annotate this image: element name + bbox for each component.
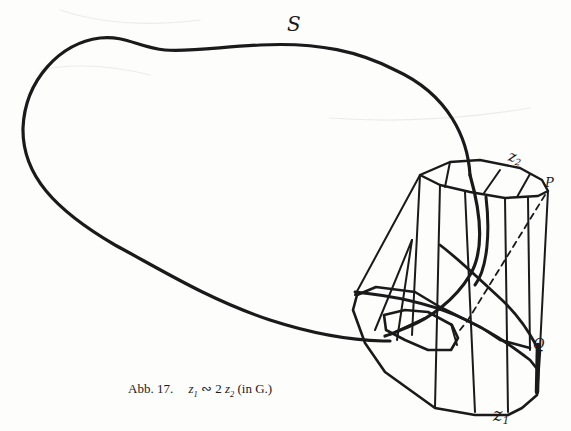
bleed-through-lines	[40, 10, 530, 120]
caption-suffix: (in G.)	[234, 381, 272, 396]
inner-loop	[384, 310, 458, 350]
surface-diagram	[0, 0, 571, 431]
caption-formula: z1 ∾ 2 z2 (in G.)	[188, 381, 272, 396]
figure-abb-17: ​	[0, 0, 571, 431]
figure-number: Abb. 17.	[128, 381, 173, 396]
label-q: Q	[533, 337, 544, 351]
label-p: P	[545, 176, 554, 189]
dashed-line-p	[460, 195, 545, 330]
label-z1-sub: 1	[502, 414, 509, 427]
label-s: S	[287, 14, 301, 34]
label-q-text: Q	[533, 336, 544, 352]
cylinder-edges	[355, 175, 548, 412]
figure-caption: Abb. 17. z1 ∾ 2 z2 (in G.)	[128, 381, 272, 399]
label-z1: z1	[493, 406, 509, 427]
caption-relation: ∾ 2	[198, 381, 225, 396]
label-s-text: S	[287, 12, 301, 36]
label-p-text: P	[545, 175, 554, 190]
